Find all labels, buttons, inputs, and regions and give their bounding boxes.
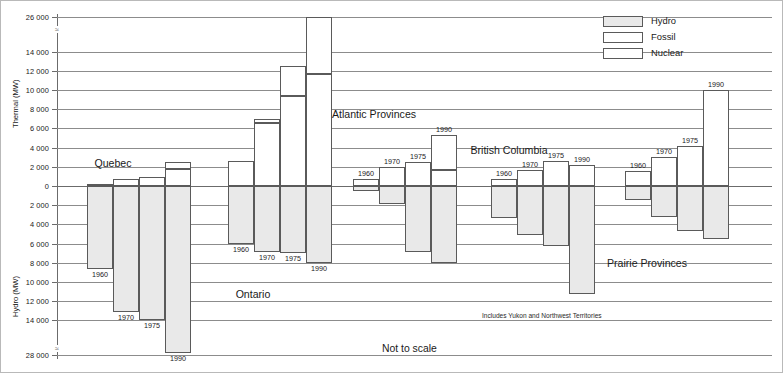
bar-year-label: 1975: [136, 321, 168, 330]
upper-axis-title: Thermal (MW): [11, 79, 20, 128]
bar-segment-hydro: [491, 186, 517, 218]
bar-segment-fossil: [651, 157, 677, 186]
tick-label-dn-28000: 28 000: [26, 351, 49, 360]
bar-segment-fossil: [431, 170, 457, 186]
tick-dn-4000: [52, 224, 57, 225]
bar-year-label: 1960: [225, 245, 257, 254]
tick-label-dn-10000: 10 000: [26, 278, 49, 287]
bar-segment-hydro: [353, 186, 379, 191]
bar-year-label: 1975: [402, 152, 434, 161]
axis-break-upper: ≈: [54, 26, 60, 33]
lower-axis-title: Hydro (MW): [11, 276, 20, 317]
legend: Hydro Fossil Nuclear: [603, 14, 723, 62]
bar-segment-fossil: [569, 165, 595, 186]
bar-segment-fossil: [491, 179, 517, 186]
tick-label-dn-4000: 4 000: [30, 220, 49, 229]
tick-dn-6000: [52, 244, 57, 245]
legend-swatch-hydro: [603, 16, 643, 27]
tick-dn-2000: [52, 205, 57, 206]
bar-segment-fossil: [165, 169, 191, 186]
bar-year-label: 1970: [110, 313, 142, 322]
bar-year-label: 1960: [84, 270, 116, 279]
bar-segment-nuclear: [165, 162, 191, 169]
bar-segment-hydro: [87, 186, 113, 269]
bar-segment-fossil: [228, 161, 254, 186]
tick-label-up-2000: 2 000: [30, 163, 49, 172]
region-label-atlantic-provinces: Atlantic Provinces: [332, 108, 416, 120]
bar-year-label: 1990: [428, 125, 460, 134]
tick-up-4000: [52, 148, 57, 149]
bar-year-label: 1990: [303, 264, 335, 273]
legend-label-nuclear: Nuclear: [651, 47, 683, 58]
bar-segment-fossil: [280, 96, 306, 186]
bar-segment-fossil: [113, 179, 139, 186]
bar-year-label: 1960: [488, 169, 520, 178]
bar-segment-fossil: [353, 179, 379, 186]
gridline-up-12000: [57, 71, 772, 72]
bar-segment-fossil: [306, 74, 332, 186]
bar-segment-hydro: [228, 186, 254, 244]
tick-label-up-26000: 26 000: [26, 13, 49, 22]
bar-segment-hydro: [625, 186, 651, 200]
bar-segment-hydro: [280, 186, 306, 253]
bar-year-label: 1990: [162, 354, 194, 363]
bar-year-label: 1970: [648, 147, 680, 156]
bar-segment-nuclear: [280, 66, 306, 96]
bar-segment-hydro: [703, 186, 729, 239]
bar-segment-fossil: [543, 161, 569, 186]
bar-segment-fossil: [677, 146, 703, 186]
tick-dn-10000: [52, 282, 57, 283]
bar-segment-hydro: [306, 186, 332, 263]
legend-item-fossil: Fossil: [603, 30, 723, 46]
bar-segment-nuclear: [431, 135, 457, 170]
bar-segment-hydro: [379, 186, 405, 204]
chart-page: Thermal (MW) Hydro (MW) ≈≈ 1960197019751…: [0, 0, 784, 374]
bar-year-label: 1990: [566, 155, 598, 164]
bar-segment-hydro: [165, 186, 191, 353]
gridline-up-6000: [57, 128, 772, 129]
bar-segment-hydro: [139, 186, 165, 320]
bar-year-label: 1960: [622, 161, 654, 170]
bar-segment-nuclear: [306, 17, 332, 74]
gridline-up-10000: [57, 90, 772, 91]
legend-swatch-fossil: [603, 32, 643, 43]
legend-item-nuclear: Nuclear: [603, 46, 723, 62]
bar-year-label: 1975: [674, 136, 706, 145]
tick-label-up-12000: 12 000: [26, 67, 49, 76]
bar-segment-hydro: [651, 186, 677, 217]
bar-segment-fossil: [517, 170, 543, 186]
tick-up-26000: [52, 17, 57, 18]
bar-year-label: 1975: [277, 254, 309, 263]
tick-label-up-0: 0: [45, 182, 49, 191]
tick-label-dn-6000: 6 000: [30, 240, 49, 249]
legend-label-fossil: Fossil: [651, 31, 675, 42]
tick-up-6000: [52, 128, 57, 129]
tick-label-dn-14000: 14 000: [26, 316, 49, 325]
tick-label-up-8000: 8 000: [30, 105, 49, 114]
bar-year-label: 1960: [350, 169, 382, 178]
tick-label-dn-12000: 12 000: [26, 297, 49, 306]
axis-break-lower: ≈: [54, 345, 60, 352]
bar-segment-fossil: [139, 177, 165, 186]
bar-segment-fossil: [379, 167, 405, 186]
bar-segment-hydro: [517, 186, 543, 235]
tick-dn-14000: [52, 320, 57, 321]
tick-label-up-6000: 6 000: [30, 124, 49, 133]
legend-item-hydro: Hydro: [603, 14, 723, 30]
bar-segment-hydro: [677, 186, 703, 231]
legend-label-hydro: Hydro: [651, 15, 676, 26]
region-label-quebec: Quebec: [94, 157, 131, 169]
bar-segment-hydro: [405, 186, 431, 252]
bar-segment-hydro: [431, 186, 457, 263]
bar-segment-fossil: [87, 184, 113, 186]
tick-up-0: [52, 186, 57, 187]
tick-up-12000: [52, 71, 57, 72]
bar-segment-hydro: [254, 186, 280, 252]
bar-segment-fossil: [625, 171, 651, 186]
tick-label-dn-2000: 2 000: [30, 201, 49, 210]
bar-segment-hydro: [543, 186, 569, 246]
tick-dn-12000: [52, 301, 57, 302]
region-label-ontario: Ontario: [236, 288, 271, 300]
bar-segment-hydro: [569, 186, 595, 294]
legend-swatch-nuclear: [603, 48, 643, 59]
